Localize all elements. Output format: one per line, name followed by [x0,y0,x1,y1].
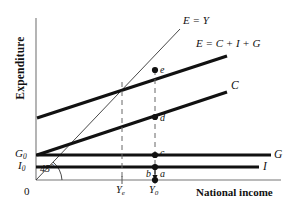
keynesian-cross-chart [0,0,287,207]
y-tick-g0-main: G [15,147,23,159]
data-point-b [152,164,158,170]
data-point-e [152,67,158,73]
y-tick-i0: I0 [18,160,25,172]
x-tick-y0-sub: 0 [155,189,159,197]
curve-label-e-equals-cig: E = C + I + G [196,38,260,49]
point-label-a: a [160,169,165,179]
data-point-c [152,152,158,158]
x-tick-ye-sub: e [122,189,125,197]
x-tick-y0: Y0 [149,185,158,197]
curve-label-consumption: C [231,80,239,92]
origin-label: 0 [24,186,30,197]
point-label-c: c [160,148,164,158]
point-label-d: d [160,113,165,123]
series-line-e-equals-cig [37,56,227,118]
point-label-b: b [146,169,151,179]
y-axis-title: Expenditure [14,22,26,114]
angle-label-45: 45° [40,164,54,174]
y-tick-i0-sub: 0 [22,164,26,173]
x-axis-title: National income [196,186,273,198]
series-line-e-equals-y [36,29,180,180]
point-label-e: e [160,65,164,75]
angle-arc-45 [53,162,62,180]
curve-label-government: G [274,149,282,161]
x-tick-ye: Ye [116,185,125,197]
data-point-a [152,177,158,183]
curve-label-e-equals-y: E = Y [183,15,209,26]
curve-label-investment: I [263,161,267,173]
data-point-d [152,114,158,120]
series-line-consumption [37,92,227,155]
